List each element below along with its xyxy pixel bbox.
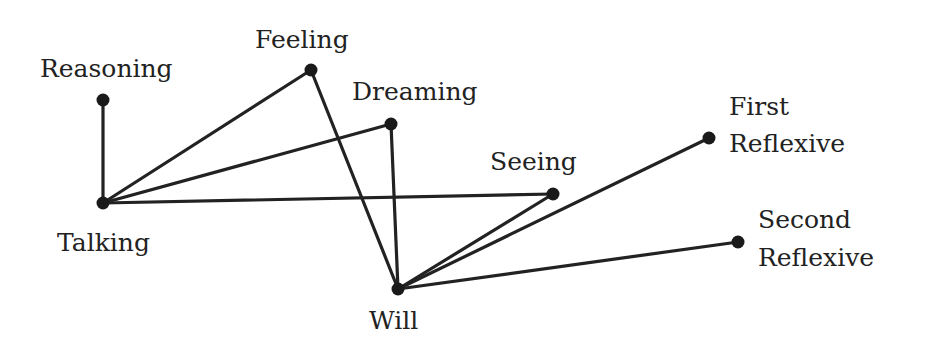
node-will: [392, 283, 405, 296]
node-label-second-reflexive-line1: Second: [758, 205, 851, 235]
edge-seeing-will: [398, 194, 553, 289]
node-talking: [97, 197, 110, 210]
edge-dreaming-will: [391, 124, 398, 289]
node-second-reflexive: [732, 236, 745, 249]
node-feeling: [305, 64, 318, 77]
graph-diagram: Reasoning Talking Feeling Dreaming Seein…: [0, 0, 925, 358]
node-first-reflexive: [703, 132, 716, 145]
edge-talking-feeling: [103, 70, 311, 203]
node-label-will: Will: [369, 306, 418, 336]
node-reasoning: [97, 94, 110, 107]
node-label-dreaming: Dreaming: [352, 77, 478, 107]
node-dreaming: [385, 118, 398, 131]
node-label-first-reflexive-line2: Reflexive: [729, 129, 845, 159]
node-label-seeing: Seeing: [490, 147, 577, 177]
node-seeing: [547, 188, 560, 201]
node-label-first-reflexive-line1: First: [729, 92, 789, 122]
node-label-talking: Talking: [57, 228, 150, 258]
node-label-second-reflexive-line2: Reflexive: [758, 243, 874, 273]
node-label-reasoning: Reasoning: [40, 54, 173, 84]
node-label-feeling: Feeling: [255, 25, 349, 55]
edge-talking-seeing: [103, 194, 553, 203]
